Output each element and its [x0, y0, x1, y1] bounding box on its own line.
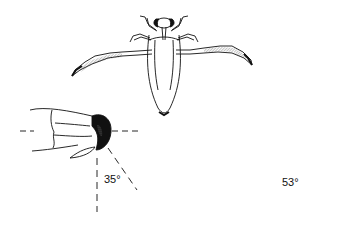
insect-illustration [72, 16, 252, 115]
left-oar-leg [72, 50, 152, 76]
joint-diagram-left [20, 109, 142, 212]
insect-body [148, 35, 181, 113]
diagram-canvas [0, 0, 337, 227]
angle-label-right: 53° [282, 177, 299, 188]
angle-label-left: 35° [104, 174, 121, 185]
